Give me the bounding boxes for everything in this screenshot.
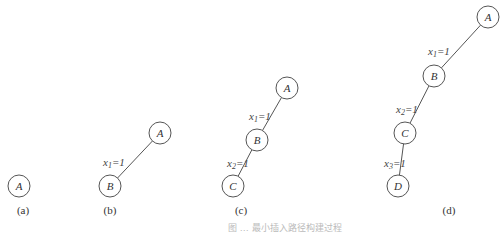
tree-node-c: C: [394, 122, 416, 144]
tree-node-a: A: [149, 122, 171, 144]
tree-node-c: C: [222, 175, 244, 197]
svg-text:D: D: [393, 180, 402, 192]
figure-caption: 图 … 最小插入路径构建过程: [228, 222, 342, 232]
svg-text:A: A: [283, 82, 291, 94]
tree-node-a: A: [477, 6, 499, 28]
panel-label: (d): [443, 204, 456, 217]
panel-label: (c): [235, 204, 248, 217]
panel-label: (a): [17, 204, 30, 217]
svg-text:A: A: [15, 180, 23, 192]
tree-node-a: A: [8, 175, 30, 197]
tree-node-d: D: [387, 175, 409, 197]
svg-text:B: B: [254, 134, 261, 146]
svg-text:B: B: [107, 180, 114, 192]
edge-label: x1=1: [102, 156, 125, 170]
tree-node-b: B: [246, 129, 268, 151]
edge-label: x2=1: [395, 103, 418, 117]
tree-node-b: B: [99, 175, 121, 197]
edge-label: x1=1: [427, 45, 450, 59]
edge-label: x2=1: [226, 157, 249, 171]
svg-text:A: A: [484, 11, 492, 23]
panel-label: (b): [104, 204, 117, 217]
edge-label: x1=1: [248, 110, 271, 124]
edge-label: x3=1: [383, 157, 406, 171]
svg-text:A: A: [156, 127, 164, 139]
svg-text:B: B: [431, 70, 438, 82]
svg-text:C: C: [401, 127, 409, 139]
tree-node-b: B: [423, 65, 445, 87]
tree-diagram: AABABCABCD (a)x1=1(b)x1=1x2=1(c)x1=1x2=1…: [0, 0, 504, 232]
tree-node-a: A: [276, 77, 298, 99]
svg-text:C: C: [229, 180, 237, 192]
